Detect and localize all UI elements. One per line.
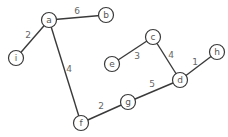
node-h: h [210, 45, 225, 60]
node-label-e: e [109, 59, 115, 69]
edge-weight-a-b: 6 [74, 6, 80, 16]
node-label-b: b [103, 10, 109, 20]
node-label-c: c [151, 32, 156, 42]
node-b: b [99, 8, 114, 23]
edge-weight-g-d: 5 [149, 79, 155, 89]
edge-weight-a-f: 4 [66, 64, 72, 74]
edge-weight-d-h: 1 [192, 57, 198, 67]
edge-weight-a-i: 2 [25, 30, 31, 40]
edge-weight-f-g: 2 [98, 101, 104, 111]
edge-weight-c-d: 4 [168, 50, 174, 60]
node-g: g [121, 95, 136, 110]
node-label-d: d [177, 75, 183, 85]
node-f: f [74, 116, 89, 131]
node-e: e [105, 57, 120, 72]
node-c: c [146, 30, 161, 45]
node-label-g: g [125, 97, 131, 107]
node-d: d [173, 73, 188, 88]
edge-a-f [49, 20, 81, 123]
nodes-layer: abicehdgf [9, 8, 225, 131]
node-a: a [42, 13, 57, 28]
node-label-h: h [214, 47, 220, 57]
node-label-a: a [46, 15, 52, 25]
edge-weight-c-e: 3 [134, 51, 140, 61]
node-label-i: i [15, 53, 18, 63]
node-i: i [9, 51, 24, 66]
weighted-graph-diagram: 62434152 abicehdgf [0, 0, 228, 137]
